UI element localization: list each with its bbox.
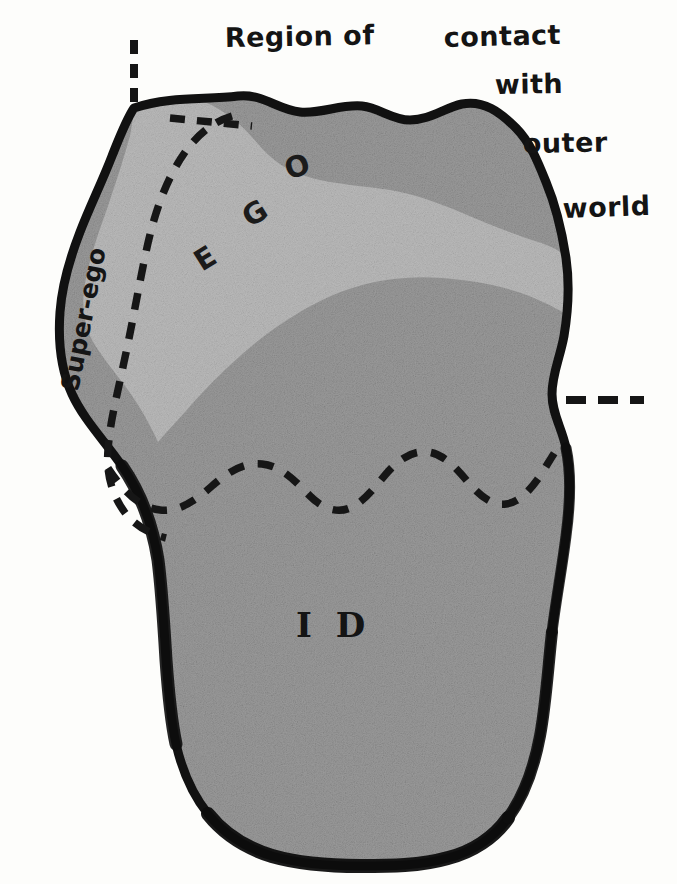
caption-word-region-of: Region of (225, 19, 375, 53)
freud-structural-diagram: Region of contact with outer world E G O… (0, 0, 677, 884)
diagram-canvas: Region of contact with outer world E G O… (0, 0, 677, 884)
caption-word-world: world (562, 190, 651, 224)
caption-word-with: with (495, 68, 564, 100)
svg-text:I D: I D (296, 605, 371, 645)
id-label: I D (296, 605, 371, 645)
caption-word-outer: outer (523, 127, 609, 159)
caption-word-contact: contact (443, 19, 561, 53)
